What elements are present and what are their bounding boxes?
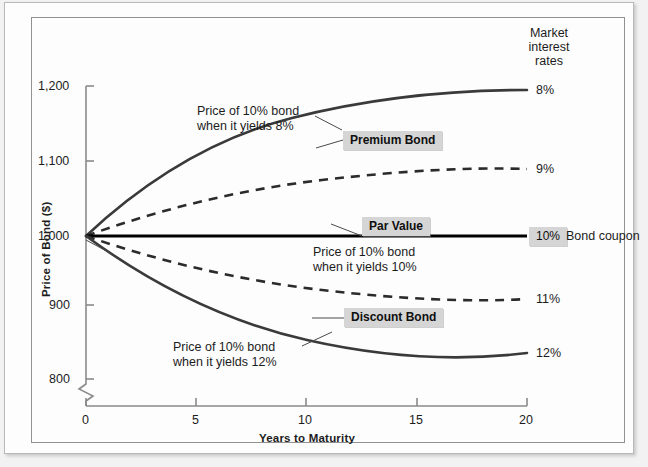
leader-premium-badge xyxy=(316,140,343,148)
badge-premium-bond[interactable]: Premium Bond xyxy=(343,131,442,150)
y-tick-label-1200: 1,200 xyxy=(38,79,69,93)
x-tick-label-20: 20 xyxy=(519,413,533,427)
x-axis-title: Years to Maturity xyxy=(259,432,355,444)
premium-note-line1: Price of 10% bond xyxy=(197,104,299,119)
discount-note-line2: when it yields 12% xyxy=(173,355,277,370)
figure-inner-frame: 1,200 1,100 1,000 900 800 0 5 10 15 20 P… xyxy=(31,17,625,443)
curve-12-percent xyxy=(86,236,527,357)
screenshot-root: 1,200 1,100 1,000 900 800 0 5 10 15 20 P… xyxy=(0,0,648,467)
y-tick-label-800: 800 xyxy=(49,372,70,386)
bond-coupon-caption: Bond coupon xyxy=(566,229,640,243)
legend-header-line1: Market xyxy=(512,26,586,41)
badge-par-value[interactable]: Par Value xyxy=(362,217,430,236)
x-tick-label-0: 0 xyxy=(82,413,89,427)
x-tick-label-5: 5 xyxy=(192,413,199,427)
y-axis-title: Price of Bond ($) xyxy=(40,202,52,297)
par-note-line1: Price of 10% bond xyxy=(313,245,415,260)
legend-header-line2: interest xyxy=(512,40,586,55)
leader-premium-note xyxy=(315,116,342,130)
curve-11-percent xyxy=(86,236,527,300)
x-tick-label-10: 10 xyxy=(298,413,312,427)
legend-header-line3: rates xyxy=(512,54,586,69)
badge-bond-coupon[interactable]: 10% xyxy=(529,227,567,246)
par-note-line2: when it yields 10% xyxy=(313,260,417,275)
x-tick-label-15: 15 xyxy=(409,413,423,427)
discount-note-line1: Price of 10% bond xyxy=(173,340,275,355)
rate-label-9-percent: 9% xyxy=(536,162,554,176)
rate-label-12-percent: 12% xyxy=(536,346,561,360)
y-tick-label-900: 900 xyxy=(49,298,70,312)
premium-note-line2: when it yields 8% xyxy=(197,119,294,134)
leader-par-badge xyxy=(331,224,362,236)
y-tick-label-1100: 1,100 xyxy=(38,154,69,168)
badge-discount-bond[interactable]: Discount Bond xyxy=(344,308,443,327)
curve-9-percent xyxy=(86,168,527,236)
figure-card: 1,200 1,100 1,000 900 800 0 5 10 15 20 P… xyxy=(4,2,634,454)
rate-label-11-percent: 11% xyxy=(536,292,560,306)
rate-label-8-percent: 8% xyxy=(536,83,554,97)
